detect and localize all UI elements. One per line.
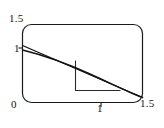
origin-label: 0 (11, 99, 17, 110)
figure-container: 1.5 1 0 1 1.5 (0, 0, 164, 128)
y-axis-label-one: 1 (14, 43, 20, 54)
x-axis-label-one: 1 (97, 103, 103, 114)
y-axis-label-max: 1.5 (9, 13, 23, 24)
slope-triangle (76, 61, 121, 91)
x-axis-label-max: 1.5 (140, 98, 154, 109)
